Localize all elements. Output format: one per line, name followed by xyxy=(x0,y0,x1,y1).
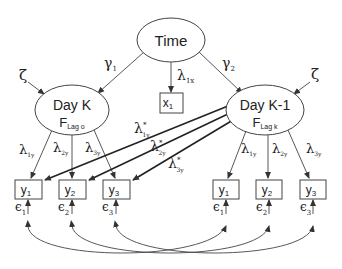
right-eps3: ϵ3 xyxy=(300,200,311,217)
cross-lambda3y: λ*3y xyxy=(168,155,184,174)
right-y3-box: y3 xyxy=(300,180,326,199)
gamma1-label: γ1 xyxy=(104,55,117,73)
left-y2-box: y2 xyxy=(59,180,86,199)
node-time: Time xyxy=(137,18,205,62)
left-lambda3y: λ3y xyxy=(85,140,101,157)
node-x1: x1 xyxy=(160,93,183,113)
day-k-1-label: Day K-1 xyxy=(240,97,291,113)
covariance-eps1 xyxy=(28,226,226,253)
cross-lambda2y: λ*2y xyxy=(150,138,166,157)
right-lambda3y: λ3y xyxy=(306,141,322,158)
node-day-k: Day K FLag o xyxy=(35,85,109,135)
edge-zeta-to-dayk1 xyxy=(294,82,310,94)
day-k-label: Day K xyxy=(53,97,92,113)
edge-zeta-to-dayk xyxy=(28,82,44,94)
right-y1-box: y1 xyxy=(213,180,239,199)
left-y1-box: y1 xyxy=(15,180,42,199)
right-y2-box: y2 xyxy=(256,180,282,199)
right-indicators: y1 y2 y3 xyxy=(213,180,326,199)
left-y3-box: y3 xyxy=(103,180,130,199)
left-indicators: y1 y2 y3 xyxy=(15,180,130,199)
right-eps1: ϵ1 xyxy=(213,200,224,217)
node-day-k-1: Day K-1 FLag k xyxy=(226,85,304,135)
right-eps2: ϵ2 xyxy=(256,200,267,217)
covariance-eps3 xyxy=(116,226,313,253)
edge-time-to-dayk1 xyxy=(199,52,242,93)
path-diagram: Time Day K FLag o Day K-1 FLag k x1 y1 y… xyxy=(0,0,342,269)
right-lambda1y: λ1y xyxy=(241,141,257,158)
edges xyxy=(28,52,313,253)
gamma2-label: γ2 xyxy=(222,55,235,73)
left-eps1: ϵ1 xyxy=(15,200,26,217)
left-lambda1y: λ1y xyxy=(19,142,35,159)
lambda1x-label: λ1x xyxy=(177,67,194,85)
left-eps2: ϵ2 xyxy=(58,200,69,217)
time-label: Time xyxy=(155,32,188,49)
left-lambda2y: λ2y xyxy=(53,140,69,157)
covariance-eps2 xyxy=(72,226,269,253)
zeta-right-label: ζ xyxy=(311,65,319,83)
cross-lambda1y: λ*1y xyxy=(134,120,150,139)
right-lambda2y: λ2y xyxy=(272,141,288,158)
left-eps3: ϵ3 xyxy=(102,200,113,217)
zeta-left-label: ζ xyxy=(19,66,27,84)
